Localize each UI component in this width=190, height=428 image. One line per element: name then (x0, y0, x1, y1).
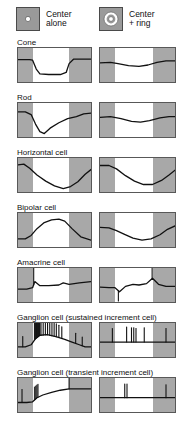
panel-center-plus-ring (99, 267, 176, 303)
response-trace (18, 268, 91, 302)
row-label: Rod (17, 93, 32, 102)
panel-center-plus-ring (99, 102, 176, 138)
panel-center-alone (17, 212, 92, 248)
row-panels (0, 267, 190, 303)
panel-center-plus-ring (99, 47, 176, 83)
row-label: Cone (17, 38, 36, 47)
panel-center-alone (17, 322, 92, 358)
row-label: Ganglion cell (transient increment cell) (17, 368, 153, 377)
row-label: Bipolar cell (17, 203, 56, 212)
response-trace (18, 103, 91, 137)
response-trace (100, 48, 175, 82)
figure-legend-header: Center alone Center + ring (0, 0, 190, 36)
legend-center-plus-ring: Center + ring (99, 7, 155, 31)
panel-center-plus-ring (99, 322, 176, 358)
response-trace (18, 158, 91, 192)
response-trace (100, 323, 175, 357)
panel-center-alone (17, 102, 92, 138)
response-trace (100, 213, 175, 247)
retina-response-figure: Center alone Center + ring ConeRodHorizo… (0, 0, 190, 428)
response-trace (18, 48, 91, 82)
legend-center-alone-label: Center alone (46, 10, 72, 29)
row-panels (0, 377, 190, 413)
response-trace (100, 378, 175, 412)
row-panels (0, 157, 190, 193)
row-label: Amacrine cell (17, 258, 65, 267)
panel-center-plus-ring (99, 157, 176, 193)
center-ring-icon (99, 7, 123, 31)
panel-center-alone (17, 267, 92, 303)
response-trace (18, 323, 91, 357)
row-panels (0, 212, 190, 248)
row-panels (0, 102, 190, 138)
response-trace (18, 213, 91, 247)
center-spot-icon (16, 7, 40, 31)
panel-center-alone (17, 377, 92, 413)
panel-center-plus-ring (99, 212, 176, 248)
panel-center-alone (17, 47, 92, 83)
response-trace (100, 158, 175, 192)
response-trace (100, 268, 175, 302)
legend-center-plus-ring-label: Center + ring (129, 10, 155, 29)
response-trace (100, 103, 175, 137)
row-label: Horizontal cell (17, 148, 67, 157)
response-trace (18, 378, 91, 412)
panel-center-alone (17, 157, 92, 193)
panel-center-plus-ring (99, 377, 176, 413)
legend-center-alone: Center alone (16, 7, 72, 31)
row-panels (0, 322, 190, 358)
row-panels (0, 47, 190, 83)
row-label: Ganglion cell (sustained increment cell) (17, 313, 157, 322)
